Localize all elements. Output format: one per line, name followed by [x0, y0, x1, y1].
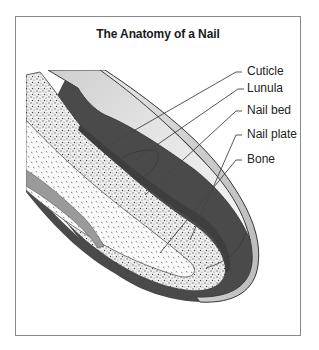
label-nail-plate: Nail plate — [247, 127, 297, 141]
nail-anatomy-illustration — [0, 0, 319, 350]
label-lunula: Lunula — [247, 81, 283, 95]
label-bone: Bone — [247, 152, 275, 166]
label-cuticle: Cuticle — [247, 64, 284, 78]
finger-cross-section — [26, 70, 259, 302]
label-nail-bed: Nail bed — [247, 103, 291, 117]
